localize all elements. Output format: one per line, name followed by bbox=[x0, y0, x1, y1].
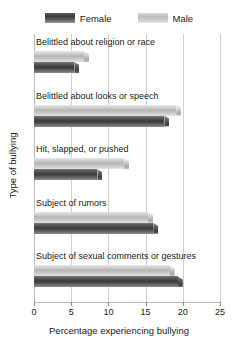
bar-male bbox=[34, 265, 175, 276]
bar-body bbox=[34, 212, 148, 223]
plot-area: Belittled about religion or raceBelittle… bbox=[34, 34, 220, 302]
bar-male bbox=[34, 158, 129, 169]
bar-cap bbox=[178, 276, 183, 287]
bar-cap bbox=[170, 265, 175, 276]
x-tick-mark bbox=[34, 302, 35, 306]
category-label: Belittled about religion or race bbox=[36, 36, 155, 48]
x-tick-label: 20 bbox=[178, 307, 188, 317]
x-tick-mark bbox=[108, 302, 109, 306]
x-tick-mark bbox=[220, 302, 221, 306]
bar-female bbox=[34, 223, 158, 234]
x-tick-mark bbox=[183, 302, 184, 306]
bar-cap bbox=[84, 51, 89, 62]
category-label: Hit, slapped, or pushed bbox=[36, 143, 129, 155]
bar-female bbox=[34, 62, 79, 73]
bar-male bbox=[34, 212, 153, 223]
legend-entry-female: Female bbox=[45, 13, 112, 24]
bar-cap bbox=[176, 105, 181, 116]
bar-cap bbox=[74, 62, 79, 73]
bar-body bbox=[34, 276, 178, 287]
bar-group: Hit, slapped, or pushed bbox=[34, 141, 220, 195]
bar-cap bbox=[148, 212, 153, 223]
chart-legend: Female Male bbox=[0, 8, 238, 28]
bar-female bbox=[34, 169, 102, 180]
legend-label-female: Female bbox=[80, 13, 112, 24]
gridline bbox=[220, 34, 221, 302]
x-axis-line bbox=[34, 302, 220, 303]
legend-label-male: Male bbox=[173, 13, 194, 24]
bar-cap bbox=[164, 116, 169, 127]
bar-male bbox=[34, 51, 89, 62]
category-label: Belittled about looks or speech bbox=[36, 90, 159, 102]
bar-group: Subject of sexual comments or gestures bbox=[34, 248, 220, 302]
bar-body bbox=[34, 265, 170, 276]
bar-cap bbox=[97, 169, 102, 180]
bar-groups: Belittled about religion or raceBelittle… bbox=[34, 34, 220, 302]
bar-body bbox=[34, 169, 97, 180]
bar-male bbox=[34, 105, 181, 116]
x-axis-title: Percentage experiencing bullying bbox=[0, 325, 238, 336]
category-label: Subject of rumors bbox=[36, 197, 107, 209]
x-tick-mark bbox=[71, 302, 72, 306]
bar-body bbox=[34, 105, 176, 116]
x-tick-label: 10 bbox=[103, 307, 113, 317]
bar-cap bbox=[153, 223, 158, 234]
bar-female bbox=[34, 116, 169, 127]
x-tick-label: 25 bbox=[215, 307, 225, 317]
x-tick-label: 5 bbox=[69, 307, 74, 317]
bar-body bbox=[34, 223, 153, 234]
bar-body bbox=[34, 158, 124, 169]
female-swatch-icon bbox=[45, 13, 75, 23]
bar-body bbox=[34, 62, 74, 73]
bar-group: Belittled about religion or race bbox=[34, 34, 220, 88]
bar-cap bbox=[124, 158, 129, 169]
y-axis-title: Type of bullying bbox=[7, 106, 18, 226]
x-tick-label: 15 bbox=[141, 307, 151, 317]
bar-group: Subject of rumors bbox=[34, 195, 220, 249]
male-swatch-icon bbox=[138, 13, 168, 23]
bar-female bbox=[34, 276, 183, 287]
bar-group: Belittled about looks or speech bbox=[34, 88, 220, 142]
x-tick-label: 0 bbox=[31, 307, 36, 317]
category-label: Subject of sexual comments or gestures bbox=[36, 250, 196, 262]
x-tick-mark bbox=[146, 302, 147, 306]
bar-body bbox=[34, 51, 84, 62]
bar-body bbox=[34, 116, 164, 127]
legend-entry-male: Male bbox=[138, 13, 194, 24]
